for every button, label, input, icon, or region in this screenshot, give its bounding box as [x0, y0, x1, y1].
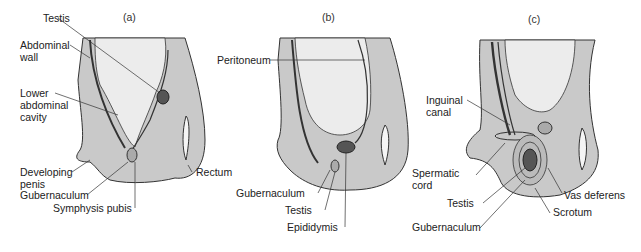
label-vas-deferens: Vas deferens — [564, 190, 625, 201]
label-testis-a: Testis — [43, 13, 70, 24]
label-symphysis-pubis: Symphysis pubis — [53, 203, 132, 214]
label-scrotum: Scrotum — [553, 207, 592, 218]
label-gubernaculum-a: Gubernaculum — [20, 190, 89, 201]
label-lower-cavity-line2: abdominal — [20, 100, 68, 111]
label-spermatic-cord-line1: Spermatic — [412, 168, 459, 179]
label-testis-c: Testis — [447, 198, 474, 209]
label-peritoneum: Peritoneum — [217, 55, 271, 66]
panel-c-title: (c) — [528, 13, 540, 25]
label-gubernaculum-c: Gubernaculum — [412, 222, 481, 233]
label-testis-b: Testis — [285, 205, 312, 216]
label-epididymis: Epididymis — [287, 222, 338, 233]
label-inguinal-canal-line2: canal — [426, 107, 451, 118]
panel-b-title: (b) — [322, 11, 335, 23]
label-spermatic-cord-line2: cord — [412, 180, 432, 191]
label-lower-cavity-line1: Lower — [20, 88, 49, 99]
panel-a-title: (a) — [123, 11, 136, 23]
label-inguinal-canal-line1: Inguinal — [426, 95, 463, 106]
label-gubernaculum-b: Gubernaculum — [236, 188, 305, 199]
label-abdominal-wall-line1: Abdominal — [20, 40, 70, 51]
label-lower-cavity-line3: cavity — [20, 112, 47, 123]
diagram-canvas — [0, 0, 641, 252]
label-rectum: Rectum — [196, 167, 232, 178]
label-abdominal-wall-line2: wall — [20, 52, 38, 63]
label-developing-penis-line1: Developing — [20, 167, 73, 178]
panel-a-illustration — [55, 18, 205, 208]
